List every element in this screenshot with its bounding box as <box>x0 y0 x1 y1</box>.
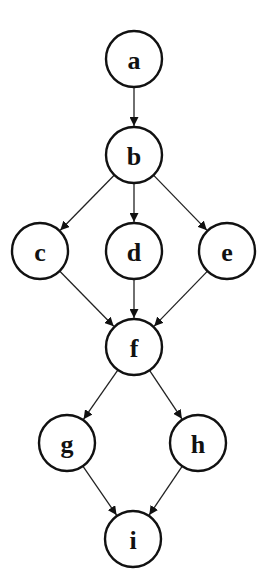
node-label: h <box>191 430 206 459</box>
node-g: g <box>39 415 95 471</box>
node-a: a <box>106 31 162 87</box>
node-label: e <box>221 238 233 267</box>
node-label: c <box>34 238 46 267</box>
edge-h-i <box>149 466 182 515</box>
edge-c-f <box>60 271 114 326</box>
node-d: d <box>106 223 162 279</box>
node-label: g <box>61 430 74 459</box>
node-c: c <box>12 223 68 279</box>
node-label: a <box>128 46 141 75</box>
edge-f-h <box>150 370 182 419</box>
edge-e-f <box>154 271 207 326</box>
node-e: e <box>199 223 255 279</box>
edge-b-c <box>60 175 114 230</box>
edge-g-i <box>83 466 117 515</box>
node-label: b <box>127 142 141 171</box>
node-h: h <box>170 415 226 471</box>
dependency-graph: abcdefghi <box>0 0 270 581</box>
node-f: f <box>106 319 162 375</box>
node-b: b <box>106 127 162 183</box>
edge-f-g <box>84 370 118 419</box>
node-label: i <box>129 526 136 555</box>
node-label: f <box>130 334 139 363</box>
edge-b-e <box>153 175 206 230</box>
node-label: d <box>127 238 142 267</box>
node-i: i <box>105 511 161 567</box>
